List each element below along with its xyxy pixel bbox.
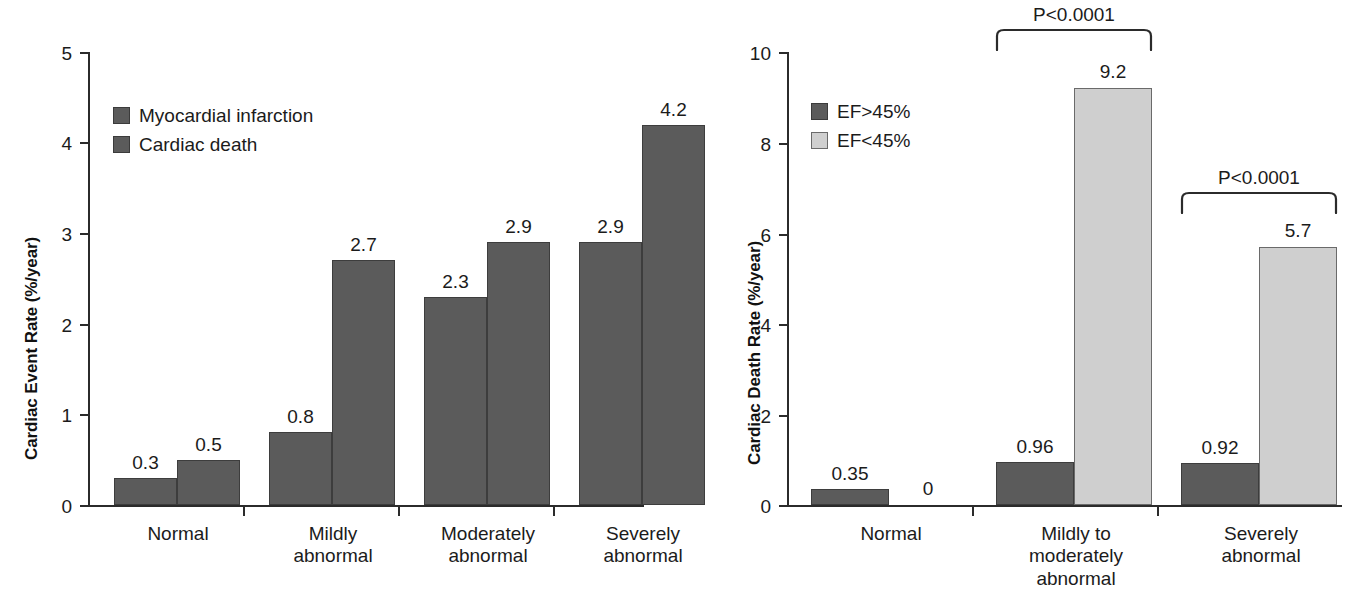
y-tick-right-6 [779, 234, 788, 236]
bar-right-normal-ef-above [811, 489, 889, 505]
y-tick-label-left-1: 1 [40, 406, 72, 425]
y-tick-right-0 [779, 505, 788, 507]
legend-left: Myocardial infarction Cardiac death [113, 104, 313, 162]
bar-right-mildmod-ef-above [996, 462, 1074, 505]
legend-item-myocardial-infarction: Myocardial infarction [113, 104, 313, 126]
legend-swatch-icon-myocardial-infarction [113, 107, 130, 124]
y-tick-right-8 [779, 143, 788, 145]
bar-value-right-normal-ef-above: 0.35 [811, 464, 889, 483]
bar-value-left-mildly-mi: 0.8 [269, 407, 332, 426]
bar-value-left-moderately-mi: 2.3 [424, 272, 487, 291]
x-tick-left-3 [553, 507, 555, 516]
x-category-label-right-severely-abnormal: Severely abnormal [1183, 523, 1339, 568]
chart-panel-right: Cardiac Death Rate (%/year) 10 8 6 4 2 0… [681, 0, 1362, 605]
legend-label-myocardial-infarction: Myocardial infarction [139, 106, 313, 125]
y-axis-title-left: Cardiac Event Rate (%/year) [22, 237, 42, 460]
y-tick-label-left-5: 5 [40, 44, 72, 63]
bar-left-normal-cd [177, 460, 240, 505]
x-axis-line-right [787, 505, 1342, 507]
legend-label-ef-above-45: EF>45% [837, 102, 910, 121]
significance-bracket-mildmod: P<0.0001 [993, 5, 1155, 50]
bar-value-left-normal-cd: 0.5 [177, 435, 240, 454]
bar-value-right-severely-ef-below: 5.7 [1259, 221, 1337, 240]
y-tick-label-right-10: 10 [731, 44, 771, 63]
bar-value-right-normal-ef-below: 0 [889, 479, 967, 498]
y-tick-label-right-4: 4 [731, 316, 771, 335]
x-category-label-left-mildly-abnormal: Mildly abnormal [271, 523, 395, 568]
bar-left-normal-mi [114, 478, 177, 505]
legend-item-ef-below-45: EF<45% [811, 129, 910, 151]
legend-swatch-icon-ef-below-45 [811, 132, 828, 149]
y-tick-left-2 [80, 324, 89, 326]
bar-value-left-severely-mi: 2.9 [579, 217, 642, 236]
legend-swatch-icon-cardiac-death [113, 136, 130, 153]
legend-item-ef-above-45: EF>45% [811, 100, 910, 122]
y-tick-right-2 [779, 415, 788, 417]
x-category-label-right-mildly-to-moderately-abnormal: Mildly to moderately abnormal [998, 523, 1154, 590]
y-tick-label-left-3: 3 [40, 225, 72, 244]
legend-item-cardiac-death: Cardiac death [113, 133, 313, 155]
bracket-icon-severely [1178, 190, 1340, 214]
y-tick-label-left-2: 2 [40, 316, 72, 335]
y-tick-right-4 [779, 324, 788, 326]
chart-panel-left: Cardiac Event Rate (%/year) 5 4 3 2 1 0 … [0, 0, 681, 605]
y-tick-label-right-6: 6 [731, 226, 771, 245]
bar-left-mildly-cd [332, 260, 395, 505]
bar-right-mildmod-ef-below [1074, 88, 1152, 505]
y-tick-left-5 [80, 52, 89, 54]
bar-value-right-mildmod-ef-below: 9.2 [1074, 62, 1152, 81]
bar-value-left-moderately-cd: 2.9 [487, 217, 550, 236]
y-axis-title-right: Cardiac Death Rate (%/year) [745, 241, 765, 465]
legend-label-cardiac-death: Cardiac death [139, 135, 257, 154]
y-tick-left-1 [80, 414, 89, 416]
y-axis-line-left [88, 52, 90, 507]
bracket-icon-mildmod [993, 27, 1155, 51]
significance-label-mildmod: P<0.0001 [993, 5, 1155, 24]
bar-right-severely-ef-above [1181, 463, 1259, 505]
x-tick-left-1 [243, 507, 245, 516]
bar-left-severely-mi [579, 242, 642, 505]
bar-value-right-severely-ef-above: 0.92 [1181, 438, 1259, 457]
x-axis-line-left [88, 505, 644, 507]
significance-bracket-severely: P<0.0001 [1178, 168, 1340, 213]
legend-label-ef-below-45: EF<45% [837, 131, 910, 150]
y-tick-label-right-2: 2 [731, 407, 771, 426]
bar-left-moderately-cd [487, 242, 550, 505]
bar-value-left-normal-mi: 0.3 [114, 453, 177, 472]
legend-swatch-icon-ef-above-45 [811, 103, 828, 120]
y-axis-line-right [787, 52, 789, 507]
x-tick-left-2 [398, 507, 400, 516]
legend-right: EF>45% EF<45% [811, 100, 910, 158]
bar-value-right-mildmod-ef-above: 0.96 [996, 437, 1074, 456]
x-tick-right-2 [1157, 507, 1159, 516]
y-tick-left-4 [80, 142, 89, 144]
y-tick-label-left-4: 4 [40, 134, 72, 153]
y-tick-right-10 [779, 52, 788, 54]
y-tick-left-3 [80, 233, 89, 235]
bar-left-mildly-mi [269, 432, 332, 505]
y-tick-label-right-0: 0 [731, 497, 771, 516]
significance-label-severely: P<0.0001 [1178, 168, 1340, 187]
y-tick-left-0 [80, 505, 89, 507]
x-tick-right-1 [972, 507, 974, 516]
y-tick-label-right-8: 8 [731, 135, 771, 154]
x-category-label-left-normal: Normal [116, 523, 240, 545]
x-category-label-left-moderately-abnormal: Moderately abnormal [426, 523, 550, 568]
y-tick-label-left-0: 0 [40, 497, 72, 516]
bar-left-moderately-mi [424, 297, 487, 505]
bar-value-left-mildly-cd: 2.7 [332, 235, 395, 254]
x-category-label-right-normal: Normal [813, 523, 969, 545]
bar-right-severely-ef-below [1259, 247, 1337, 505]
figure-two-panel-bar-charts: Cardiac Event Rate (%/year) 5 4 3 2 1 0 … [0, 0, 1362, 605]
